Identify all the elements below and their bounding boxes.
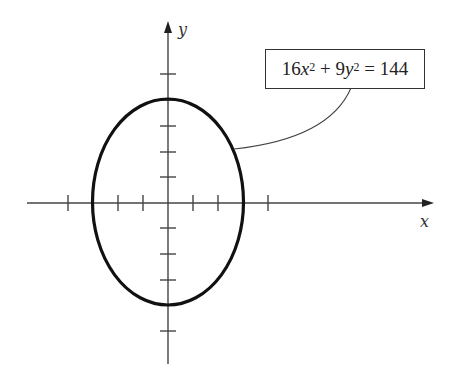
eq-coef-y: 9 bbox=[336, 58, 346, 80]
eq-equals: = bbox=[364, 58, 375, 80]
x-axis-label: x bbox=[420, 212, 429, 231]
y-axis-arrow-icon bbox=[164, 21, 172, 33]
eq-plus: + bbox=[320, 58, 331, 80]
annotation-leader-line bbox=[234, 88, 351, 149]
eq-var-y: y bbox=[345, 58, 353, 80]
x-axis-arrow-icon bbox=[422, 199, 434, 207]
ellipse-figure: y x 16x2 + 9y2 = 144 bbox=[0, 0, 455, 392]
eq-coef-x: 16 bbox=[282, 58, 301, 80]
eq-var-x: x bbox=[301, 58, 309, 80]
x-axis bbox=[27, 199, 434, 207]
eq-rhs: 144 bbox=[380, 58, 409, 80]
y-axis bbox=[164, 21, 172, 364]
equation-callout: 16x2 + 9y2 = 144 bbox=[265, 49, 425, 89]
y-axis-label: y bbox=[177, 20, 188, 39]
